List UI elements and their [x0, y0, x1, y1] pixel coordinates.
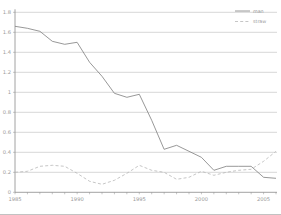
x-tick-label: 2005: [257, 196, 270, 202]
series-man-line: [15, 26, 276, 178]
series-straw-line: [15, 151, 276, 184]
y-tick-label: 1.4: [3, 49, 12, 55]
chart-figure: 1985199019952000200500.20.40.60.811.21.4…: [0, 0, 281, 215]
y-tick-label: 1.6: [3, 29, 11, 35]
y-tick-label: 0.8: [3, 109, 11, 115]
x-tick-label: 1995: [133, 196, 146, 202]
line-chart: 1985199019952000200500.20.40.60.811.21.4…: [0, 0, 281, 215]
x-tick-label: 1985: [8, 196, 21, 202]
y-tick-label: 1.2: [3, 69, 11, 75]
x-tick-label: 1990: [71, 196, 84, 202]
y-tick-label: 1: [8, 89, 11, 95]
y-tick-label: 0.2: [3, 169, 11, 175]
x-tick-label: 2000: [195, 196, 208, 202]
y-tick-label: 1.8: [3, 9, 11, 15]
y-tick-label: 0.4: [3, 149, 12, 155]
y-tick-label: 0.6: [3, 129, 11, 135]
legend-man-label: man: [253, 9, 264, 14]
legend-straw-label: straw: [253, 19, 266, 24]
y-tick-label: 0: [8, 189, 11, 195]
